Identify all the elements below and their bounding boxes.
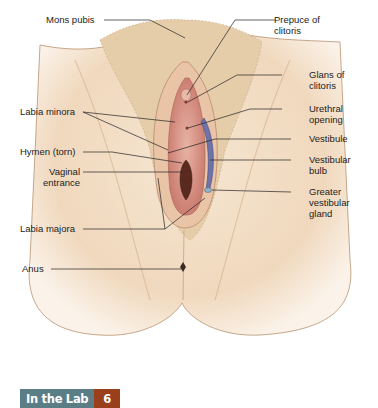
label-vestibular-bulb: Vestibular bulb <box>309 154 351 176</box>
label-hymen: Hymen (torn) <box>20 146 75 157</box>
label-labia-minora: Labia minora <box>20 106 75 117</box>
label-greater-vestibular-gland: Greater vestibular gland <box>309 186 350 219</box>
section-number: 6 <box>94 389 120 408</box>
greater-vestibular-gland-shape <box>205 188 212 193</box>
label-anus: Anus <box>22 263 44 274</box>
label-prepuce-of-clitoris: Prepuce of clitoris <box>274 14 320 36</box>
label-labia-majora: Labia majora <box>20 223 75 234</box>
label-mons-pubis: Mons pubis <box>46 14 95 25</box>
in-the-lab-badge: In the Lab 6 <box>20 389 120 408</box>
label-vaginal-entrance: Vaginal entrance <box>30 166 80 188</box>
label-urethral-opening: Urethral opening <box>309 103 343 125</box>
anatomy-figure: Mons pubis Labia minora Hymen (torn) Vag… <box>0 0 378 408</box>
section-label: In the Lab <box>20 389 94 408</box>
label-vestibule: Vestibule <box>309 133 348 144</box>
label-glans-of-clitoris: Glans of clitoris <box>309 69 344 91</box>
